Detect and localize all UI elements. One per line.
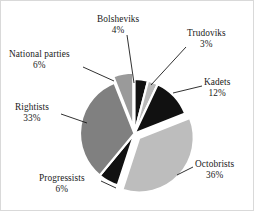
slice-label-octobrists: Octobrists 36% — [195, 159, 234, 180]
slice-label-rightists-name: Rightists — [15, 102, 49, 113]
pie-chart-figure: Bolsheviks 4% Trudoviks 3% Kadets 12% Oc… — [0, 0, 254, 211]
slice-label-progressists-name: Progressists — [39, 173, 85, 184]
slice-label-kadets: Kadets 12% — [204, 77, 230, 98]
slice-label-progressists-value: 6% — [39, 184, 85, 195]
leader-line-national-parties — [83, 67, 114, 81]
slice-label-bolsheviks: Bolsheviks 4% — [97, 14, 139, 35]
slice-label-octobrists-value: 36% — [195, 170, 234, 181]
slice-label-bolsheviks-name: Bolsheviks — [97, 14, 139, 25]
slice-label-octobrists-name: Octobrists — [195, 159, 234, 170]
slice-label-national-parties-name: National parties — [9, 49, 70, 60]
slice-label-progressists: Progressists 6% — [39, 173, 85, 194]
leader-line-trudoviks — [151, 47, 186, 85]
slice-label-trudoviks-value: 3% — [187, 39, 226, 50]
slice-label-national-parties: National parties 6% — [9, 49, 70, 70]
slice-label-trudoviks: Trudoviks 3% — [187, 28, 226, 49]
leader-line-kadets — [173, 86, 202, 93]
slice-label-national-parties-value: 6% — [9, 60, 70, 71]
slice-label-rightists-value: 33% — [15, 113, 49, 124]
pie-slice-group — [80, 73, 194, 193]
slice-label-rightists: Rightists 33% — [15, 102, 49, 123]
slice-label-trudoviks-name: Trudoviks — [187, 28, 226, 39]
slice-label-kadets-value: 12% — [204, 88, 230, 99]
slice-label-bolsheviks-value: 4% — [97, 25, 139, 36]
slice-label-kadets-name: Kadets — [204, 77, 230, 88]
